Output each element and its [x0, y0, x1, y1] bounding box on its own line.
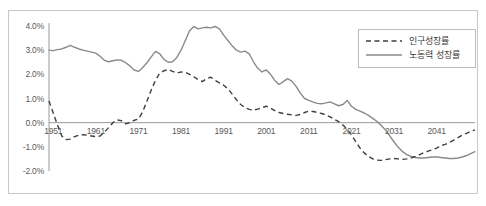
- y-axis-tick-label: -1.0%: [9, 142, 44, 152]
- legend-dashed-line-icon: [365, 36, 403, 46]
- x-axis-tick-label: 1991: [207, 126, 241, 136]
- x-axis-tick-label: 1961: [79, 126, 113, 136]
- x-axis-tick-label: 2021: [334, 126, 368, 136]
- x-axis-tick-label: 2011: [292, 126, 326, 136]
- x-axis-tick-label: 2031: [377, 126, 411, 136]
- legend-label-population-growth: 인구성장률: [409, 35, 449, 47]
- y-axis-tick-label: 3.0%: [9, 45, 44, 55]
- y-axis-tick-label: -2.0%: [9, 166, 44, 176]
- x-axis-tick-label: 2001: [249, 126, 283, 136]
- legend-label-labor-force-growth: 노동력 성장률: [409, 49, 460, 61]
- x-axis-tick-label: 2041: [420, 126, 454, 136]
- legend-solid-line-icon: [365, 50, 403, 60]
- series-line-population-growth: [49, 70, 475, 161]
- y-axis-tick-label: 1.0%: [9, 94, 44, 104]
- legend-item-population-growth: 인구성장률: [365, 34, 469, 48]
- y-axis-tick-label: 2.0%: [9, 69, 44, 79]
- chart-legend: 인구성장률 노동력 성장률: [358, 29, 476, 68]
- chart-plot-frame: 4.0%3.0%2.0%1.0%0.0%-1.0%-2.0% 195119611…: [8, 10, 478, 194]
- x-axis-tick-label: 1971: [121, 126, 155, 136]
- line-chart: 4.0%3.0%2.0%1.0%0.0%-1.0%-2.0% 195119611…: [0, 0, 486, 206]
- x-axis-tick-label: 1951: [36, 126, 70, 136]
- y-axis-tick-label: 4.0%: [9, 21, 44, 31]
- x-axis-tick-label: 1981: [164, 126, 198, 136]
- legend-item-labor-force-growth: 노동력 성장률: [365, 48, 469, 62]
